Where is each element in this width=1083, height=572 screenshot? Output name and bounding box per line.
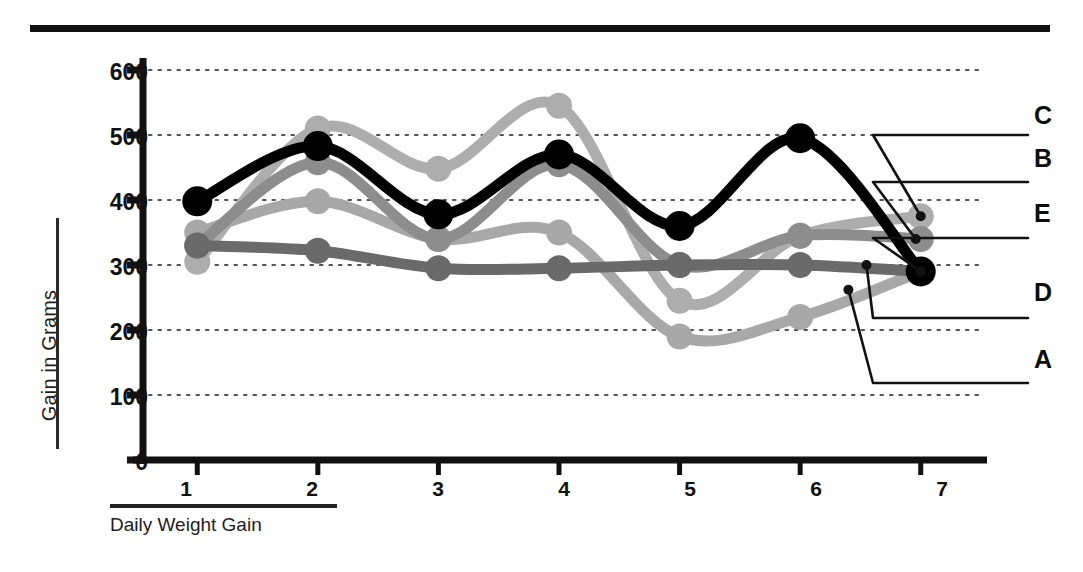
legend-label-c[interactable]: C — [1034, 101, 1052, 130]
legend-callouts — [843, 135, 1028, 383]
legend-label-d[interactable]: D — [1034, 278, 1052, 307]
chart-figure: Gain in Grams Daily Weight Gain 600 500 … — [0, 0, 1083, 572]
legend-label-b[interactable]: B — [1034, 144, 1052, 173]
legend-label-e[interactable]: E — [1034, 199, 1051, 228]
legend-label-a[interactable]: A — [1034, 345, 1052, 374]
callout-line-c — [873, 135, 1028, 221]
plot-area — [0, 0, 1083, 572]
series-lines — [182, 93, 935, 350]
